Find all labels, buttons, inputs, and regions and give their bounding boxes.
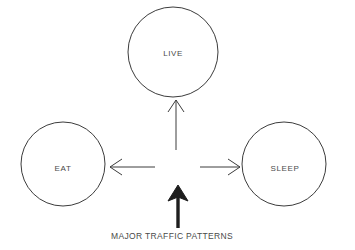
node-label-live: LIVE bbox=[163, 49, 183, 58]
node-label-sleep: SLEEP bbox=[271, 164, 300, 173]
diagram-canvas: LIVE EAT SLEEP MAJOR TRAFFIC PATTERNS bbox=[0, 0, 355, 250]
arrow-to-live-icon bbox=[168, 100, 184, 150]
arrow-to-sleep-icon bbox=[200, 159, 240, 175]
arrow-inbound-traffic-icon bbox=[168, 185, 188, 228]
node-label-eat: EAT bbox=[55, 164, 72, 173]
diagram-vector-layer bbox=[0, 0, 355, 250]
diagram-caption: MAJOR TRAFFIC PATTERNS bbox=[111, 231, 233, 241]
arrow-to-eat-icon bbox=[110, 159, 155, 175]
